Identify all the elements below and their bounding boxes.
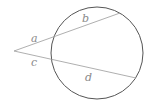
secant-diagram: a b c d <box>0 0 154 110</box>
label-b: b <box>82 12 89 25</box>
label-a: a <box>31 32 38 45</box>
label-c: c <box>31 56 37 69</box>
label-d: d <box>85 71 92 84</box>
circle <box>51 7 143 99</box>
diagram-svg: a b c d <box>0 0 154 110</box>
